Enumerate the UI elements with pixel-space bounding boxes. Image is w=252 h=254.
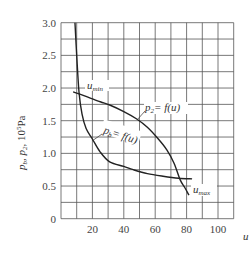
y-axis-label: pb, p2, 105Pa bbox=[15, 115, 29, 171]
x-tick-label: 100 bbox=[210, 223, 227, 235]
x-tick-label: 80 bbox=[181, 223, 193, 235]
chart: 00.51.01.52.02.53.0 20406080100 u pb, p2… bbox=[0, 0, 252, 254]
x-tick-label: 20 bbox=[87, 223, 99, 235]
x-axis-label: u bbox=[243, 230, 249, 242]
annotation-u-max: umax bbox=[191, 183, 217, 197]
x-tick-label: 60 bbox=[150, 223, 162, 235]
x-tick-label: 40 bbox=[118, 223, 130, 235]
x-axis-ticks: 20406080100 bbox=[87, 223, 227, 235]
y-tick-label: 2.0 bbox=[42, 82, 56, 94]
svg-text:p2= f(u): p2= f(u) bbox=[144, 101, 180, 115]
annotation-p2: p2= f(u) bbox=[137, 101, 188, 120]
y-tick-label: 2.5 bbox=[42, 49, 56, 61]
y-tick-label: 1.0 bbox=[42, 147, 56, 159]
annotation-u-min: umin bbox=[85, 79, 109, 93]
y-tick-label: 0.5 bbox=[42, 180, 56, 192]
y-tick-label: 0 bbox=[51, 213, 57, 225]
y-axis-ticks: 00.51.01.52.02.53.0 bbox=[42, 17, 56, 225]
annotation-pb: pb= f(u) bbox=[92, 119, 142, 148]
y-tick-label: 3.0 bbox=[42, 17, 56, 29]
y-tick-label: 1.5 bbox=[42, 115, 56, 127]
